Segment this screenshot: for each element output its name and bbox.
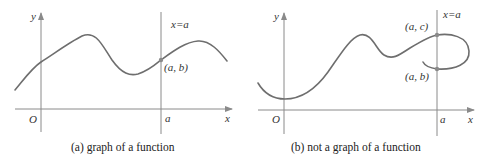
x-axis-label: x	[467, 113, 473, 125]
panel-a: y x O a x=a (a, b) (a) graph of a functi…	[15, 10, 232, 154]
line-label: x=a	[170, 18, 189, 30]
caption-b: (b) not a graph of a function	[291, 141, 421, 154]
y-axis-label: y	[30, 10, 36, 22]
point-a-b	[159, 58, 163, 62]
point-label: (a, b)	[164, 61, 188, 74]
point-b-label: (a, b)	[405, 70, 429, 83]
x-axis-label: x	[224, 112, 230, 124]
a-tick-label: a	[440, 113, 446, 125]
origin-label: O	[272, 113, 280, 125]
panel-b: y x O a x=a (a, c) (a, b) (b) not a grap…	[258, 8, 474, 154]
line-label: x=a	[442, 8, 461, 20]
origin-label: O	[29, 113, 37, 125]
point-a-c	[435, 33, 439, 37]
y-axis-label: y	[273, 10, 279, 22]
function-graph-diagram: y x O a x=a (a, b) (a) graph of a functi…	[0, 0, 486, 162]
caption-a: (a) graph of a function	[71, 141, 175, 154]
function-curve	[15, 35, 227, 90]
a-tick-label: a	[165, 112, 171, 124]
point-c-label: (a, c)	[405, 20, 429, 33]
point-a-b	[435, 67, 439, 71]
